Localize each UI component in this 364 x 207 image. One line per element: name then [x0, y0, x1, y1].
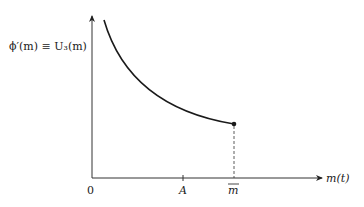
endpoint-marker: [232, 122, 237, 127]
diagram-canvas: ϕ′(m) ≡ U₃(m) m(t) 0 A m: [0, 0, 364, 207]
origin-label: 0: [87, 184, 94, 197]
y-axis-label: ϕ′(m) ≡ U₃(m): [9, 40, 87, 53]
tick-label-m-bar: m: [228, 184, 238, 197]
marginal-utility-curve: [104, 20, 234, 124]
tick-label-A: A: [178, 184, 187, 197]
x-axis-label: m(t): [326, 172, 349, 185]
